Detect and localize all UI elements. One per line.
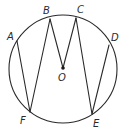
label-e: E (93, 118, 100, 129)
segment-ed (92, 45, 109, 114)
segment-ce (76, 18, 92, 114)
label-a: A (6, 31, 14, 42)
segment-af (17, 41, 30, 112)
segment-oc (63, 18, 76, 68)
center-point-o (61, 66, 65, 70)
segment-fb (30, 19, 50, 112)
label-b: B (43, 5, 50, 16)
label-o: O (58, 72, 66, 83)
chord-segments (17, 18, 109, 114)
circle-diagram: ABCDEFO (0, 0, 127, 135)
label-d: D (111, 32, 119, 43)
label-f: F (20, 115, 26, 126)
label-c: C (77, 4, 84, 15)
segment-bo (50, 19, 63, 68)
